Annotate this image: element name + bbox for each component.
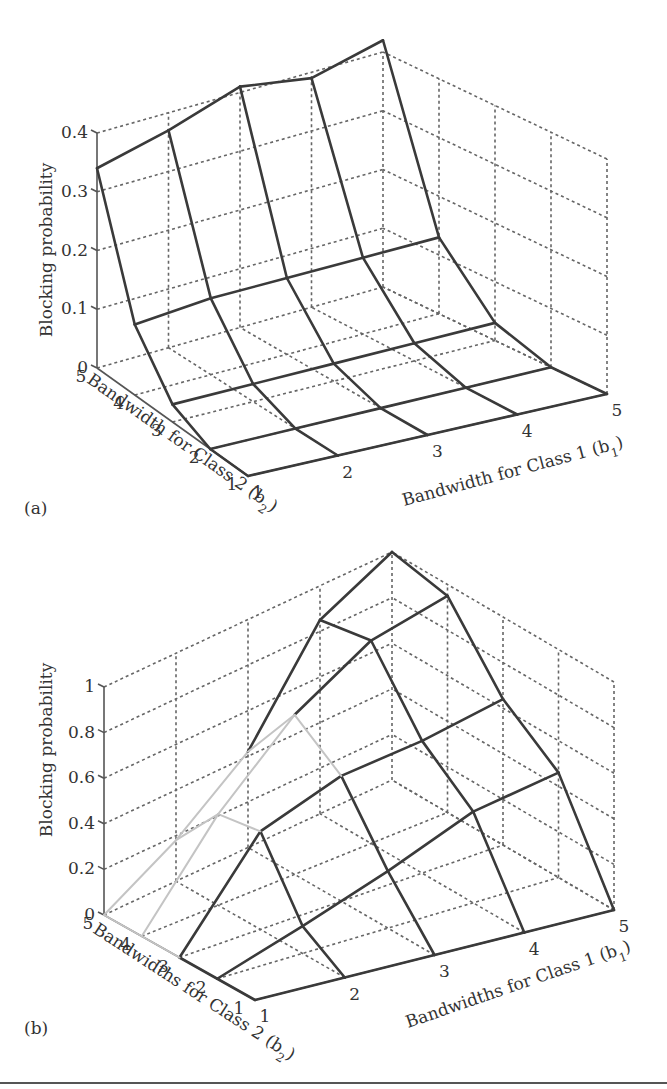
mesh-row-segment (341, 741, 422, 776)
mesh-row-segment (320, 552, 392, 620)
mesh-row-segment (180, 831, 261, 957)
mesh-col-segment (341, 776, 388, 871)
mesh-row-segment (422, 699, 503, 741)
z-tick-label: 0.2 (68, 858, 95, 878)
mesh-row-segment (217, 926, 302, 979)
mesh-col-segment (176, 814, 218, 840)
z-tick-label: 1 (84, 676, 95, 696)
b2-tick-label: 5 (83, 913, 94, 933)
b2-axis-label-text-b: Bandwidths for Class 2 (b (90, 919, 288, 1057)
mesh-col-segment (559, 773, 615, 910)
z-tick-label: 0.4 (68, 813, 95, 833)
mesh-row-segment (176, 752, 248, 840)
mesh-row-segment (345, 955, 435, 978)
mesh-row-segment (104, 840, 176, 915)
mesh-col-segment (473, 812, 524, 933)
b2-axis-label-b: Bandwidths for Class 2 (b2) (87, 919, 300, 1070)
z-tick-label: 0.6 (68, 767, 95, 787)
z-tick-label: 0.8 (68, 722, 95, 742)
mesh-col-segment (303, 926, 345, 977)
mesh-col-segment (371, 641, 422, 741)
b1-tick-label: 2 (349, 984, 360, 1004)
b1-tick-label: 5 (619, 916, 630, 936)
z-axis-label-b: Blocking probability (36, 662, 56, 837)
mesh-row-segment (303, 871, 388, 926)
surface-mesh-b (104, 552, 614, 1000)
b1-axis-label-b: Bandwidths for Class 1 (b1) (403, 936, 635, 1038)
mesh-row-segment (524, 910, 614, 933)
mesh-col-segment (218, 814, 260, 831)
bottom-rule (0, 1082, 667, 1084)
mesh-row-segment (388, 812, 473, 872)
mesh-row-segment (142, 814, 218, 936)
b1-tick-label: 3 (439, 961, 450, 981)
mesh-row-segment (473, 773, 558, 812)
panel-label-b: (b) (24, 1018, 48, 1038)
mesh-row-segment (255, 978, 345, 1001)
mesh-col-segment (392, 552, 448, 596)
grid-lines-b (104, 552, 614, 979)
mesh-col-segment (320, 620, 371, 641)
mesh-col-segment (260, 831, 302, 926)
mesh-row-segment (248, 620, 320, 752)
mesh-row-segment (435, 933, 525, 956)
b1-tick-label: 4 (529, 939, 540, 959)
surface-chart-b: 00.20.40.60.811234512345 Blocking probab… (0, 0, 667, 1089)
